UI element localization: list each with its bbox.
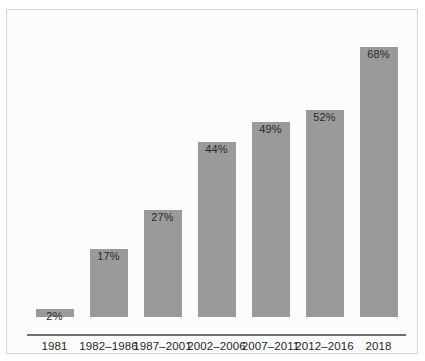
bar-2012–2016	[299, 110, 350, 317]
bar-rect	[198, 142, 236, 317]
bars-layer: 2%17%27%44%49%52%68%	[7, 10, 417, 353]
cut-off-caption	[6, 0, 406, 5]
figure-frame: 2%17%27%44%49%52%68% 19811982–19861987–2…	[6, 9, 418, 354]
bar-value-label: 49%	[245, 123, 296, 135]
bar-rect	[252, 122, 290, 317]
bar-2002–2006	[191, 142, 242, 317]
bar-2018	[353, 47, 404, 317]
chart-screenshot: 2%17%27%44%49%52%68% 19811982–19861987–2…	[0, 0, 425, 361]
plot-area: 2%17%27%44%49%52%68% 19811982–19861987–2…	[7, 10, 417, 353]
bar-value-label: 17%	[83, 250, 134, 262]
bar-value-label: 52%	[299, 111, 350, 123]
x-axis-line	[27, 334, 406, 336]
bar-2007–2011	[245, 122, 296, 317]
bar-value-label: 2%	[29, 310, 80, 322]
bar-rect	[360, 47, 398, 317]
bar-value-label: 27%	[137, 211, 188, 223]
bar-1987–2001	[137, 210, 188, 317]
bar-value-label: 44%	[191, 143, 242, 155]
bar-value-label: 68%	[353, 48, 404, 60]
tick-label-2018: 2018	[344, 340, 413, 353]
bar-rect	[306, 110, 344, 317]
bar-rect	[144, 210, 182, 317]
